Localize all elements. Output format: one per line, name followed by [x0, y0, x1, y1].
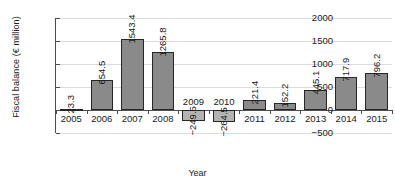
y-axis-title: Fiscal balance (€ million): [11, 7, 21, 127]
bar-group-2010[interactable]: −264.52010: [209, 18, 240, 133]
x-tick-label-2007: 2007: [117, 114, 148, 124]
x-tick-label-2015: 2015: [361, 114, 392, 124]
value-label-2012: 152.2: [280, 84, 290, 108]
bar-2008[interactable]: [152, 52, 175, 110]
x-tick-label-2014: 2014: [331, 114, 362, 124]
bar-group-2006[interactable]: 654.52006: [87, 18, 118, 133]
x-axis-title: Year: [0, 168, 395, 178]
x-tick-2010: [209, 110, 210, 114]
bar-group-2008[interactable]: 1265.82008: [148, 18, 179, 133]
value-label-2014: 717.9: [341, 58, 351, 82]
x-tick-label-2006: 2006: [87, 114, 118, 124]
x-tick-2009: [178, 110, 179, 114]
value-label-2015: 796.2: [371, 54, 381, 78]
x-tick-end: [392, 110, 393, 114]
value-label-2011: 221.4: [249, 81, 259, 105]
bar-group-2013[interactable]: 445.12013: [300, 18, 331, 133]
value-label-2010: −264.5: [218, 107, 228, 136]
value-label-2006: 654.5: [96, 61, 106, 85]
x-tick-label-2008: 2008: [148, 114, 179, 124]
fiscal-balance-bar-chart: Fiscal balance (€ million) 2000 1500 100…: [0, 0, 395, 186]
value-label-2009: −249.5: [188, 107, 198, 136]
bar-group-2011[interactable]: 221.42011: [239, 18, 270, 133]
bar-group-2012[interactable]: 152.22012: [270, 18, 301, 133]
x-tick-label-2011: 2011: [239, 114, 270, 124]
bar-2014[interactable]: [335, 77, 358, 110]
bar-2015[interactable]: [365, 73, 388, 110]
x-tick-label-2012: 2012: [270, 114, 301, 124]
bar-group-2014[interactable]: 717.92014: [331, 18, 362, 133]
x-tick-label-2013: 2013: [300, 114, 331, 124]
x-tick-label-2010: 2010: [209, 97, 240, 107]
bar-group-2005[interactable]: 23.32005: [56, 18, 87, 133]
value-label-2005: 23.3: [66, 95, 76, 114]
value-label-2007: 1543.4: [127, 14, 137, 43]
y-tick-minus-500: [56, 133, 60, 134]
x-tick-label-2005: 2005: [56, 114, 87, 124]
bar-group-2015[interactable]: 796.22015: [361, 18, 392, 133]
bar-group-2007[interactable]: 1543.42007: [117, 18, 148, 133]
value-label-2013: 445.1: [310, 70, 320, 94]
value-label-2008: 1265.8: [157, 27, 167, 56]
bar-group-2009[interactable]: −249.52009: [178, 18, 209, 133]
x-tick-label-2009: 2009: [178, 97, 209, 107]
bars-layer: 23.32005654.520061543.420071265.82008−24…: [56, 18, 392, 133]
x-axis-title-text: Year: [188, 168, 206, 178]
bar-2007[interactable]: [121, 39, 144, 110]
